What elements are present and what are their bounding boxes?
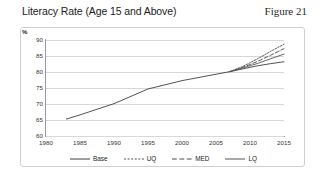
gridline [46, 136, 284, 137]
chart-frame: % 60657075808590 19801985199019952000200… [20, 27, 305, 167]
y-tick-label: 90 [36, 37, 43, 43]
x-tick-label: 1990 [107, 140, 121, 146]
series-line-uq [230, 44, 284, 72]
legend-label: MED [195, 156, 209, 162]
plot-area: 60657075808590 1980198519901995200020052… [46, 40, 284, 136]
legend-swatch-uq-icon [124, 156, 144, 162]
y-tick-label: 70 [36, 101, 43, 107]
y-tick-label: 75 [36, 85, 43, 91]
legend-label: LQ [248, 156, 257, 162]
legend-swatch-base-icon [70, 156, 90, 162]
legend-swatch-med-icon [172, 156, 192, 162]
y-axis-unit-label: % [22, 29, 27, 35]
legend-label: UQ [147, 156, 157, 162]
chart-legend: BaseUQMEDLQ [21, 156, 306, 162]
series-lines [46, 40, 284, 136]
figure-header: Literacy Rate (Age 15 and Above) Figure … [0, 5, 322, 23]
series-line-base [66, 62, 284, 119]
x-tick-label: 2010 [243, 140, 257, 146]
legend-label: Base [93, 156, 108, 162]
x-tick-label: 1985 [73, 140, 87, 146]
x-tick-label: 1995 [141, 140, 155, 146]
page-title: Literacy Rate (Age 15 and Above) [22, 5, 176, 17]
y-tick-label: 85 [36, 53, 43, 59]
legend-item-med[interactable]: MED [172, 156, 209, 162]
x-tick-label: 2015 [277, 140, 291, 146]
x-tick-label: 1980 [39, 140, 53, 146]
legend-swatch-lq-icon [225, 156, 245, 162]
legend-item-base[interactable]: Base [70, 156, 108, 162]
figure-number-label: Figure 21 [265, 5, 307, 17]
x-tick-label: 2005 [209, 140, 223, 146]
x-tick-label: 2000 [175, 140, 189, 146]
y-tick-label: 65 [36, 117, 43, 123]
legend-item-lq[interactable]: LQ [225, 156, 257, 162]
figure-container: Literacy Rate (Age 15 and Above) Figure … [0, 0, 322, 176]
y-tick-label: 80 [36, 69, 43, 75]
legend-item-uq[interactable]: UQ [124, 156, 157, 162]
